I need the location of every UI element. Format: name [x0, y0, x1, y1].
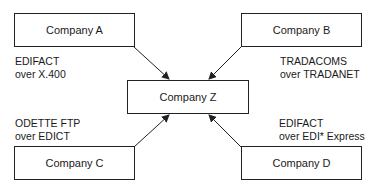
arrow-c-to-z	[134, 115, 169, 147]
arrow-a-to-z	[134, 47, 169, 79]
node-label: Company A	[46, 24, 103, 36]
node-company-b: Company B	[241, 13, 362, 47]
protocol-line1: EDIFACT	[15, 55, 66, 68]
node-label: Company C	[45, 157, 103, 169]
node-label: Company B	[273, 24, 330, 36]
node-label: Company Z	[160, 91, 217, 103]
protocol-line2: over EDICT	[15, 130, 80, 143]
node-company-c: Company C	[14, 146, 135, 180]
protocol-label-c: ODETTE FTP over EDICT	[15, 117, 80, 143]
protocol-line2: over X.400	[15, 68, 66, 81]
arrow-b-to-z	[209, 47, 241, 79]
node-company-a: Company A	[14, 13, 135, 47]
protocol-line2: over TRADANET	[280, 68, 360, 81]
protocol-label-b: TRADACOMS over TRADANET	[280, 55, 360, 81]
protocol-line1: TRADACOMS	[280, 55, 360, 68]
protocol-line1: EDIFACT	[279, 117, 365, 130]
node-company-z: Company Z	[127, 80, 249, 114]
protocol-line1: ODETTE FTP	[15, 117, 80, 130]
arrow-d-to-z	[209, 115, 241, 147]
node-company-d: Company D	[241, 146, 362, 180]
protocol-label-d: EDIFACT over EDI* Express	[279, 117, 365, 143]
protocol-label-a: EDIFACT over X.400	[15, 55, 66, 81]
protocol-line2: over EDI* Express	[279, 130, 365, 143]
node-label: Company D	[272, 157, 330, 169]
